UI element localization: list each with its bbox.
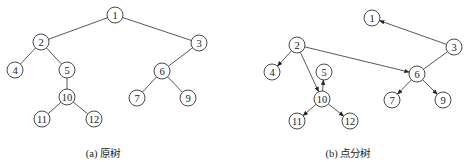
edge-6-7 [142,77,156,92]
svg-text:7: 7 [134,93,139,104]
svg-text:5: 5 [321,67,326,78]
svg-text:3: 3 [196,38,201,49]
centroid-decomposition-tree-figure: 12345610791112 [264,10,462,129]
edge-10-12 [73,102,88,114]
tree-node-5: 5 [316,64,332,80]
edge-10-11 [48,102,61,113]
svg-text:4: 4 [269,67,275,78]
svg-text:4: 4 [12,65,18,76]
svg-text:5: 5 [64,65,69,76]
edge-3-1 [380,21,447,45]
edge-10-5 [323,80,324,91]
tree-node-6: 6 [409,66,425,82]
tree-node-6: 6 [154,63,170,79]
tree-node-5: 5 [59,62,75,78]
svg-text:1: 1 [112,10,117,21]
svg-text:11: 11 [292,116,302,127]
tree-node-11: 11 [289,113,305,129]
tree-node-10: 10 [59,89,75,105]
tree-node-3: 3 [191,35,207,51]
tree-node-12: 12 [86,111,102,127]
edge-2-4 [277,51,291,66]
edge-6-9 [168,77,183,92]
edge-6-9 [423,80,438,95]
svg-text:12: 12 [89,114,100,125]
svg-text:6: 6 [414,69,419,80]
svg-text:12: 12 [345,116,356,127]
svg-text:3: 3 [451,42,456,53]
tree-node-1: 1 [107,7,123,23]
edge-1-3 [123,18,192,41]
edge-3-6 [423,52,447,70]
edge-3-6 [168,48,192,66]
svg-text:2: 2 [38,37,43,48]
edge-10-12 [328,104,343,116]
svg-text:6: 6 [159,66,164,77]
edge-2-4 [20,48,35,64]
svg-text:2: 2 [294,40,299,51]
tree-node-7: 7 [384,92,400,108]
svg-text:9: 9 [440,95,445,106]
svg-text:10: 10 [317,94,328,105]
edge-10-11 [303,104,316,115]
tree-node-3: 3 [446,39,462,55]
original-tree-figure: 12345610791112 [7,7,207,127]
svg-text:11: 11 [37,114,47,125]
tree-node-2: 2 [33,34,49,50]
tree-node-4: 4 [7,62,23,78]
svg-text:7: 7 [389,95,394,106]
caption-centroid-tree: (b) 点分树 [326,145,371,160]
tree-node-11: 11 [34,111,50,127]
edge-2-5 [46,48,61,64]
caption-original-tree: (a) 原树 [86,145,120,160]
tree-node-12: 12 [342,113,358,129]
svg-text:1: 1 [369,13,374,24]
tree-node-2: 2 [289,37,305,53]
tree-node-9: 9 [180,90,196,106]
tree-node-4: 4 [264,64,280,80]
tree-node-1: 1 [364,10,380,26]
svg-text:10: 10 [62,92,73,103]
tree-node-7: 7 [129,90,145,106]
tree-node-10: 10 [314,91,330,107]
edge-1-2 [49,18,108,40]
tree-diagram-canvas: 12345610791112 12345610791112 [0,0,467,162]
tree-node-9: 9 [435,92,451,108]
svg-text:9: 9 [185,93,190,104]
edge-6-7 [398,80,412,94]
